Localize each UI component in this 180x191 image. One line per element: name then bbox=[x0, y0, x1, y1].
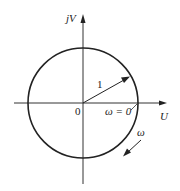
vector-magnitude-label: 1 bbox=[97, 78, 103, 90]
horizontal-axis-label: U bbox=[160, 110, 169, 122]
omega-direction-line bbox=[128, 140, 141, 152]
unit-circle-diagram: jV U 0 1 ω = 0 ω bbox=[0, 0, 180, 191]
unit-vector bbox=[83, 80, 124, 103]
horizontal-axis-arrow-icon bbox=[159, 101, 167, 106]
omega-zero-leader-line bbox=[131, 104, 137, 110]
omega-zero-label: ω = 0 bbox=[105, 105, 132, 117]
origin-label: 0 bbox=[75, 105, 81, 117]
omega-direction-label: ω bbox=[137, 126, 145, 138]
vertical-axis-arrow-icon bbox=[81, 14, 86, 23]
unit-vector-arrowhead-icon bbox=[121, 77, 130, 84]
vertical-axis-label: jV bbox=[64, 12, 77, 24]
